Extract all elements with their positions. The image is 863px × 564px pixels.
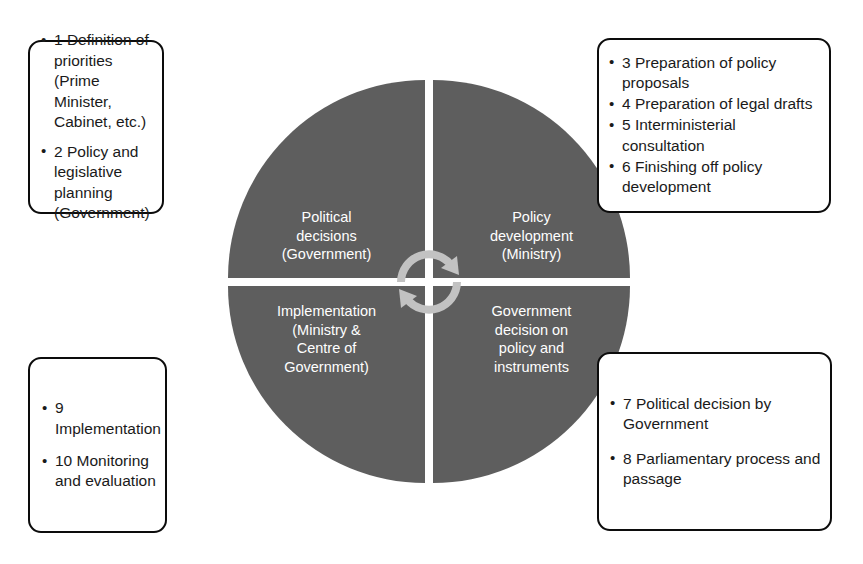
list-item-text: 1 Definition of priorities (Prime Minist…: [54, 31, 149, 130]
quadrant-political-decisions[interactable]: Political decisions (Government): [228, 80, 425, 278]
list-item-text: 9 Implementation: [55, 399, 161, 436]
list-item: •5 Interministerial consultation: [609, 115, 821, 156]
bullet-glyph: •: [610, 448, 615, 468]
callout-bottom-right-list: •7 Political decision by Government •8 P…: [610, 394, 822, 490]
quadrant-label-implementation: Implementation (Ministry & Centre of Gov…: [228, 302, 425, 376]
bullet-glyph: •: [41, 30, 46, 50]
list-item-text: 2 Policy and legislative planning (Gover…: [54, 143, 150, 221]
quadrant-label-political-decisions: Political decisions (Government): [228, 208, 425, 264]
callout-top-left-list: •1 Definition of priorities (Prime Minis…: [41, 30, 153, 223]
callout-top-right[interactable]: •3 Preparation of policy proposals •4 Pr…: [597, 38, 831, 213]
list-item-text: 5 Interministerial consultation: [622, 116, 736, 153]
list-item: •4 Preparation of legal drafts: [609, 94, 821, 114]
bullet-glyph: •: [609, 156, 614, 176]
callout-top-right-list: •3 Preparation of policy proposals •4 Pr…: [609, 53, 821, 198]
list-item-text: 4 Preparation of legal drafts: [622, 95, 812, 112]
callout-bottom-left-list: •9 Implementation •10 Monitoring and eva…: [42, 398, 157, 492]
list-item: •9 Implementation: [42, 398, 157, 439]
list-item-text: 3 Preparation of policy proposals: [622, 54, 776, 91]
bullet-glyph: •: [609, 94, 614, 114]
callout-bottom-right[interactable]: •7 Political decision by Government •8 P…: [597, 352, 832, 531]
list-item: •8 Parliamentary process and passage: [610, 449, 822, 490]
quadrant-implementation[interactable]: Implementation (Ministry & Centre of Gov…: [228, 286, 425, 483]
bullet-glyph: •: [42, 451, 47, 471]
list-item-text: 10 Monitoring and evaluation: [55, 452, 156, 489]
bullet-glyph: •: [41, 141, 46, 161]
list-item: •2 Policy and legislative planning (Gove…: [41, 142, 153, 224]
list-item: •1 Definition of priorities (Prime Minis…: [41, 30, 153, 132]
list-item: •6 Finishing off policy development: [609, 157, 821, 198]
callout-top-left[interactable]: •1 Definition of priorities (Prime Minis…: [28, 40, 164, 214]
list-item-text: 7 Political decision by Government: [623, 395, 771, 432]
list-item: •10 Monitoring and evaluation: [42, 451, 157, 492]
bullet-glyph: •: [609, 52, 614, 72]
policy-cycle-circle: Political decisions (Government) Policy …: [228, 80, 630, 483]
list-item: •7 Political decision by Government: [610, 394, 822, 435]
bullet-glyph: •: [42, 398, 47, 418]
callout-bottom-left[interactable]: •9 Implementation •10 Monitoring and eva…: [28, 357, 167, 533]
list-item: •3 Preparation of policy proposals: [609, 53, 821, 94]
list-item-text: 6 Finishing off policy development: [622, 158, 762, 195]
quadrant-label-policy-development: Policy development (Ministry): [433, 208, 630, 264]
diagram-canvas: Political decisions (Government) Policy …: [0, 0, 863, 564]
bullet-glyph: •: [610, 393, 615, 413]
list-item-text: 8 Parliamentary process and passage: [623, 450, 820, 487]
bullet-glyph: •: [609, 115, 614, 135]
